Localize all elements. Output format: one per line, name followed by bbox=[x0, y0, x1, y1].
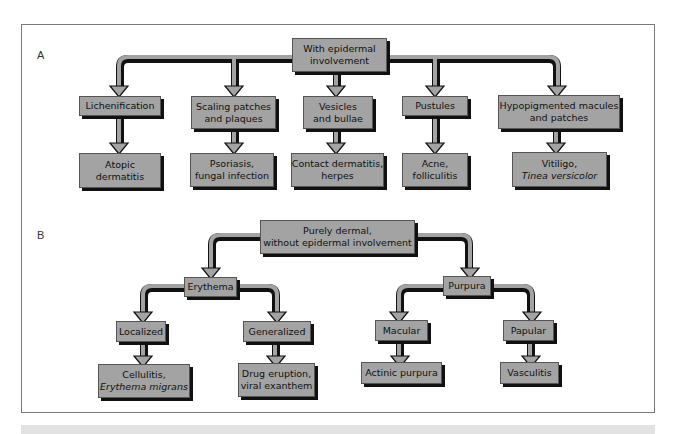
node-text: Cellulitis, bbox=[100, 369, 188, 381]
node-text: Contact dermatitis, bbox=[292, 158, 383, 170]
node-atopic-dermatitis: Atopicdermatitis bbox=[79, 153, 161, 188]
node-text: Erythema migrans bbox=[100, 381, 188, 393]
node-text: Erythema bbox=[187, 281, 233, 293]
node-text: and patches bbox=[500, 112, 619, 124]
node-text: Actinic purpura bbox=[365, 367, 438, 379]
node-cellulitis: Cellulitis,Erythema migrans bbox=[98, 364, 190, 398]
node-text: Psoriasis, bbox=[195, 158, 269, 170]
node-text: Vitiligo, bbox=[522, 158, 598, 170]
node-text: and bullae bbox=[313, 113, 363, 125]
node-vitiligo: Vitiligo,Tinea versicolor bbox=[512, 152, 607, 187]
node-text: Papular bbox=[511, 325, 547, 337]
node-purpura: Purpura bbox=[443, 276, 491, 296]
node-psoriasis: Psoriasis,fungal infection bbox=[190, 153, 274, 187]
node-text: Lichenification bbox=[86, 100, 155, 112]
node-text: Localized bbox=[119, 326, 163, 338]
node-hypopigmented: Hypopigmented maculesand patches bbox=[498, 95, 620, 129]
node-text: Vesicles bbox=[313, 101, 363, 113]
node-text: Hypopigmented macules bbox=[500, 100, 619, 112]
node-text: involvement bbox=[303, 55, 375, 67]
node-text: Purely dermal, bbox=[263, 225, 412, 237]
node-actinic-purpura: Actinic purpura bbox=[361, 362, 442, 384]
node-text: folliculitis bbox=[413, 170, 458, 182]
node-text: without epidermal involvement bbox=[263, 237, 412, 249]
node-vasculitis: Vasculitis bbox=[500, 362, 559, 384]
node-text: and plaques bbox=[196, 113, 271, 125]
node-text: Tinea versicolor bbox=[522, 170, 598, 182]
node-text: viral exanthem bbox=[241, 380, 313, 392]
node-generalized: Generalized bbox=[243, 321, 311, 342]
node-contact-dermatitis: Contact dermatitis,herpes bbox=[291, 153, 384, 187]
node-text: Macular bbox=[383, 325, 421, 337]
node-text: Scaling patches bbox=[196, 101, 271, 113]
node-acne: Acne,folliculitis bbox=[402, 153, 468, 187]
node-scaling-patches: Scaling patchesand plaques bbox=[191, 96, 276, 129]
node-text: dermatitis bbox=[96, 171, 144, 183]
node-text: Acne, bbox=[413, 158, 458, 170]
node-lichenification: Lichenification bbox=[79, 96, 161, 116]
node-pustules: Pustules bbox=[402, 96, 468, 116]
node-text: Generalized bbox=[249, 326, 306, 338]
node-text: With epidermal bbox=[303, 43, 375, 55]
node-papular: Papular bbox=[503, 320, 554, 341]
node-text: Vasculitis bbox=[507, 367, 551, 379]
node-text: Pustules bbox=[415, 100, 455, 112]
node-text: fungal infection bbox=[195, 170, 269, 182]
node-text: Atopic bbox=[96, 159, 144, 171]
node-drug-eruption: Drug eruption,viral exanthem bbox=[238, 363, 315, 397]
node-erythema: Erythema bbox=[184, 277, 237, 297]
node-localized: Localized bbox=[116, 321, 166, 342]
node-dermal-root: Purely dermal,without epidermal involvem… bbox=[260, 220, 415, 254]
node-vesicles-bullae: Vesiclesand bullae bbox=[303, 96, 373, 129]
node-text: herpes bbox=[292, 170, 383, 182]
node-text: Purpura bbox=[448, 280, 485, 292]
node-macular: Macular bbox=[375, 320, 428, 341]
node-text: Drug eruption, bbox=[241, 368, 313, 380]
node-epidermal-root: With epidermalinvolvement bbox=[292, 38, 387, 72]
